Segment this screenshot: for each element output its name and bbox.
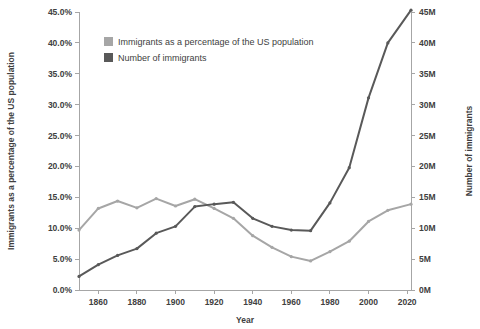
y2-tick-label: 5M: [419, 254, 431, 264]
data-point: [155, 197, 158, 200]
data-point: [193, 198, 196, 201]
legend-label: Immigrants as a percentage of the US pop…: [118, 37, 314, 47]
x-tick-label: 1860: [89, 297, 108, 307]
data-point: [409, 9, 412, 12]
data-point: [251, 217, 254, 220]
data-point: [309, 229, 312, 232]
legend-label: Number of immigrants: [118, 53, 207, 63]
chart-legend: Immigrants as a percentage of the US pop…: [104, 37, 314, 63]
y-tick-label: 40.0%: [48, 38, 73, 48]
data-point: [174, 204, 177, 207]
data-point: [155, 232, 158, 235]
data-point: [213, 207, 216, 210]
data-point: [367, 220, 370, 223]
y-tick-label: 5.0%: [53, 254, 73, 264]
data-point: [232, 201, 235, 204]
x-tick-label: 2000: [359, 297, 378, 307]
y2-tick-label: 10M: [419, 223, 436, 233]
y2-tick-label: 20M: [419, 161, 436, 171]
y-tick-label: 10.0%: [48, 223, 73, 233]
data-point: [386, 209, 389, 212]
y-axis-left-ticks: 0.0%5.0%10.0%15.0%20.0%25.0%30.0%35.0%40…: [48, 7, 79, 295]
chart-plot-area: 0.0%5.0%10.0%15.0%20.0%25.0%30.0%35.0%40…: [0, 0, 480, 329]
legend-swatch: [104, 37, 113, 46]
x-tick-label: 2020: [398, 297, 417, 307]
y-axis-right-ticks: 0M5M10M15M20M25M30M35M40M45M: [411, 7, 436, 295]
y-tick-label: 45.0%: [48, 7, 73, 17]
y2-tick-label: 25M: [419, 131, 436, 141]
data-point: [409, 203, 412, 206]
series-line-1: [79, 10, 411, 276]
y2-tick-label: 40M: [419, 38, 436, 48]
data-point: [309, 259, 312, 262]
data-point: [232, 217, 235, 220]
data-point: [290, 255, 293, 258]
data-point: [386, 41, 389, 44]
legend-swatch: [104, 53, 113, 62]
data-point: [348, 240, 351, 243]
data-series: [77, 9, 412, 278]
immigration-chart: 0.0%5.0%10.0%15.0%20.0%25.0%30.0%35.0%40…: [0, 0, 480, 329]
data-point: [328, 250, 331, 253]
data-point: [270, 246, 273, 249]
y-tick-label: 30.0%: [48, 100, 73, 110]
data-point: [270, 225, 273, 228]
x-tick-label: 1940: [243, 297, 262, 307]
x-tick-label: 1980: [320, 297, 339, 307]
x-tick-label: 1900: [166, 297, 185, 307]
data-point: [213, 203, 216, 206]
y-tick-label: 0.0%: [53, 285, 73, 295]
y2-tick-label: 30M: [419, 100, 436, 110]
data-point: [174, 225, 177, 228]
y2-tick-label: 0M: [419, 285, 431, 295]
data-point: [328, 201, 331, 204]
y-tick-label: 35.0%: [48, 69, 73, 79]
data-point: [135, 206, 138, 209]
y2-tick-label: 15M: [419, 192, 436, 202]
x-axis-title: Year: [236, 315, 255, 325]
data-point: [77, 228, 80, 231]
x-tick-label: 1960: [282, 297, 301, 307]
data-point: [116, 254, 119, 257]
y-tick-label: 20.0%: [48, 161, 73, 171]
y2-tick-label: 35M: [419, 69, 436, 79]
data-point: [290, 228, 293, 231]
y-tick-label: 25.0%: [48, 131, 73, 141]
y-axis-left-title: Immigrants as a percentage of the US pop…: [6, 52, 16, 250]
data-point: [193, 205, 196, 208]
data-point: [77, 275, 80, 278]
data-point: [348, 166, 351, 169]
y-axis-right-title: Number of immigrants: [464, 105, 474, 196]
x-axis-ticks: 186018801900192019401960198020002020: [89, 290, 417, 307]
data-point: [367, 96, 370, 99]
x-tick-label: 1880: [127, 297, 146, 307]
data-point: [97, 263, 100, 266]
data-point: [97, 207, 100, 210]
data-point: [116, 199, 119, 202]
y-tick-label: 15.0%: [48, 192, 73, 202]
data-point: [135, 247, 138, 250]
data-point: [251, 234, 254, 237]
x-tick-label: 1920: [205, 297, 224, 307]
y2-tick-label: 45M: [419, 7, 436, 17]
